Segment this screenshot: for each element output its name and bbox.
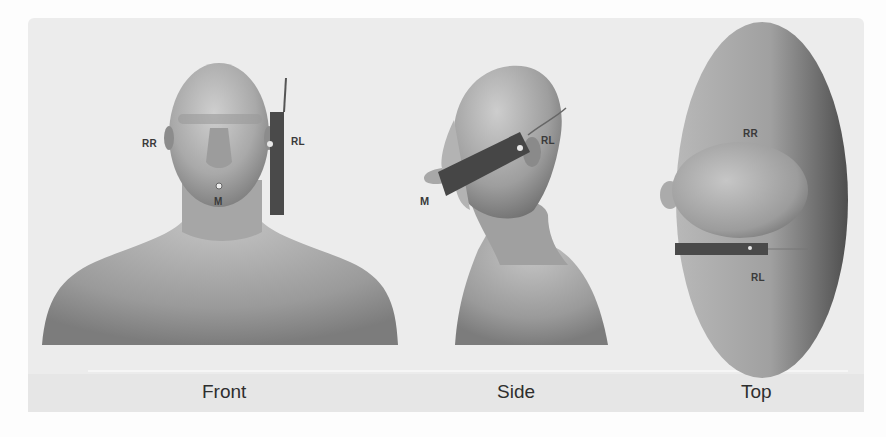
side-view-mannequin: [424, 66, 608, 345]
top-marker-rr: RR: [743, 128, 758, 139]
top-view-mannequin: [660, 22, 848, 378]
front-marker-rl: RL: [291, 136, 305, 147]
front-marker-m: M: [214, 196, 223, 207]
side-marker-m: M: [420, 195, 429, 207]
caption-front: Front: [202, 381, 246, 403]
side-marker-rl: RL: [541, 135, 555, 146]
mannequin-figure: RR RL M RL M RR RL Front Side Top: [0, 0, 886, 437]
mannequin-illustrations: [0, 0, 886, 437]
caption-top: Top: [741, 381, 772, 403]
front-marker-rr: RR: [142, 138, 157, 149]
top-marker-rl: RL: [751, 272, 765, 283]
caption-side: Side: [497, 381, 535, 403]
